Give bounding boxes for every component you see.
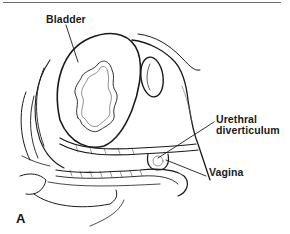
label-bladder: Bladder — [46, 13, 86, 25]
diverticulum-sac — [147, 154, 168, 170]
label-urethral-diverticulum-line2: diverticulum — [216, 124, 280, 136]
panel-letter: A — [16, 211, 25, 226]
bladder-mucosa — [75, 61, 117, 132]
urethral-leader — [158, 122, 214, 158]
vagina-canal — [56, 169, 187, 196]
label-vagina: Vagina — [209, 166, 243, 178]
vagina-leader — [166, 160, 206, 176]
rectum-oval — [138, 56, 165, 99]
